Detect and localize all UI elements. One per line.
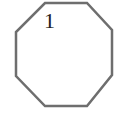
octagon-label: 1 <box>44 8 55 33</box>
octagon-diagram: 1 <box>0 0 115 113</box>
octagon-shape <box>16 3 112 106</box>
